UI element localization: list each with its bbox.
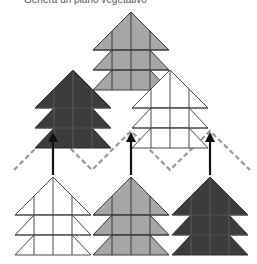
top-grey-tree — [93, 12, 169, 90]
tree-tiling-diagram — [0, 0, 257, 264]
bottom-white-tree — [15, 177, 91, 255]
arrow-center — [126, 132, 136, 175]
bottom-grey-tree — [93, 177, 169, 255]
bottom-dark-tree — [172, 177, 248, 255]
middle-dark-tree — [35, 70, 111, 148]
arrow-right — [205, 132, 215, 175]
